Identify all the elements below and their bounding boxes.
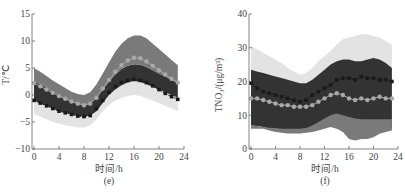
data-point-black-markers bbox=[298, 100, 302, 104]
x-axis-label: 时间/h bbox=[95, 163, 123, 174]
data-point-gray-markers bbox=[63, 97, 67, 101]
data-point-black-markers bbox=[70, 113, 74, 117]
data-point-gray-markers bbox=[76, 101, 80, 105]
panel-label: (f) bbox=[320, 176, 330, 187]
data-point-black-markers bbox=[82, 115, 86, 119]
data-point-gray-markers bbox=[163, 72, 167, 76]
data-point-black-markers bbox=[341, 76, 345, 80]
data-point-black-markers bbox=[95, 107, 99, 111]
y-tick-label: 0 bbox=[25, 90, 30, 100]
data-point-gray-markers bbox=[157, 68, 161, 72]
data-point-gray-markers bbox=[255, 96, 259, 100]
data-point-black-markers bbox=[176, 98, 180, 102]
data-point-gray-markers bbox=[32, 81, 36, 85]
x-tick-label: 24 bbox=[393, 152, 403, 162]
y-tick-label: 10 bbox=[238, 111, 248, 121]
data-point-black-markers bbox=[286, 97, 290, 101]
x-tick-label: 16 bbox=[129, 152, 139, 162]
data-point-gray-markers bbox=[377, 94, 381, 98]
data-point-gray-markers bbox=[341, 93, 345, 97]
data-point-black-markers bbox=[151, 84, 155, 88]
data-point-black-markers bbox=[157, 88, 161, 92]
data-point-black-markers bbox=[57, 109, 61, 113]
data-point-gray-markers bbox=[390, 96, 394, 100]
data-point-black-markers bbox=[366, 76, 370, 80]
data-point-black-markers bbox=[280, 95, 284, 99]
data-point-gray-markers bbox=[359, 96, 363, 100]
x-tick-label: 20 bbox=[369, 152, 379, 162]
data-point-black-markers bbox=[274, 93, 278, 97]
data-point-gray-markers bbox=[57, 94, 61, 98]
data-point-black-markers bbox=[126, 79, 130, 83]
y-tick-label: −10 bbox=[15, 144, 30, 154]
data-point-gray-markers bbox=[126, 58, 130, 62]
x-tick-label: 4 bbox=[57, 152, 62, 162]
x-tick-label: 12 bbox=[320, 152, 330, 162]
data-point-black-markers bbox=[163, 92, 167, 96]
data-point-gray-markers bbox=[304, 105, 308, 109]
y-axis-label: TNO₃/(μg/m³) bbox=[214, 58, 225, 113]
data-point-black-markers bbox=[63, 111, 67, 115]
data-point-gray-markers bbox=[335, 91, 339, 95]
x-tick-label: 24 bbox=[179, 152, 189, 162]
data-point-gray-markers bbox=[365, 98, 369, 102]
data-point-gray-markers bbox=[298, 105, 302, 109]
x-tick-label: 20 bbox=[154, 152, 164, 162]
data-point-gray-markers bbox=[132, 56, 136, 60]
data-point-black-markers bbox=[317, 90, 321, 94]
data-point-black-markers bbox=[32, 99, 36, 103]
data-point-black-markers bbox=[76, 114, 80, 118]
data-point-black-markers bbox=[347, 76, 351, 80]
y-tick-label: 5 bbox=[25, 63, 30, 73]
data-point-gray-markers bbox=[267, 100, 271, 104]
data-point-black-markers bbox=[335, 78, 339, 82]
data-point-gray-markers bbox=[347, 96, 351, 100]
data-point-gray-markers bbox=[44, 87, 48, 91]
x-tick-label: 8 bbox=[82, 152, 87, 162]
panel-label: (e) bbox=[104, 176, 115, 187]
data-point-black-markers bbox=[120, 81, 124, 85]
data-point-black-markers bbox=[384, 78, 388, 82]
data-point-gray-markers bbox=[273, 101, 277, 105]
y-tick-label: 20 bbox=[238, 77, 248, 87]
data-point-gray-markers bbox=[138, 56, 142, 60]
data-point-gray-markers bbox=[322, 96, 326, 100]
data-point-gray-markers bbox=[119, 63, 123, 67]
y-axis-label: T/℃ bbox=[1, 65, 11, 84]
x-tick-label: 12 bbox=[104, 152, 114, 162]
x-tick-label: 4 bbox=[273, 152, 278, 162]
data-point-gray-markers bbox=[261, 98, 265, 102]
data-point-gray-markers bbox=[371, 96, 375, 100]
x-tick-label: 16 bbox=[344, 152, 354, 162]
data-point-black-markers bbox=[390, 80, 394, 84]
data-point-black-markers bbox=[88, 114, 92, 118]
data-point-gray-markers bbox=[328, 93, 332, 97]
y-tick-label: −5 bbox=[20, 117, 30, 127]
data-point-black-markers bbox=[372, 76, 376, 80]
data-point-gray-markers bbox=[144, 59, 148, 63]
data-point-gray-markers bbox=[384, 96, 388, 100]
data-point-black-markers bbox=[138, 79, 142, 83]
data-point-gray-markers bbox=[249, 96, 253, 100]
data-point-gray-markers bbox=[38, 84, 42, 88]
data-point-black-markers bbox=[359, 75, 363, 79]
data-point-black-markers bbox=[255, 86, 259, 90]
data-point-black-markers bbox=[261, 90, 265, 94]
data-point-gray-markers bbox=[310, 103, 314, 107]
data-point-black-markers bbox=[323, 86, 327, 90]
data-point-gray-markers bbox=[82, 103, 86, 107]
data-point-gray-markers bbox=[69, 99, 73, 103]
data-point-gray-markers bbox=[286, 103, 290, 107]
data-point-black-markers bbox=[329, 83, 333, 87]
data-point-gray-markers bbox=[279, 103, 283, 107]
data-point-gray-markers bbox=[107, 78, 111, 82]
data-point-gray-markers bbox=[169, 77, 173, 81]
data-point-black-markers bbox=[292, 98, 296, 102]
data-point-gray-markers bbox=[88, 101, 92, 105]
y-tick-label: 30 bbox=[238, 43, 248, 53]
data-point-black-markers bbox=[249, 81, 253, 85]
data-point-black-markers bbox=[170, 95, 174, 99]
x-axis-label: 时间/h bbox=[311, 163, 339, 174]
data-point-black-markers bbox=[145, 81, 149, 85]
chart-panel-f: 01020304004812162024时间/h(f)TNO₃/(μg/m³) bbox=[214, 9, 403, 187]
